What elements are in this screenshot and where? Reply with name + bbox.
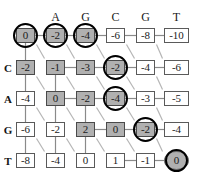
row-header-3: G	[2, 124, 14, 136]
edge-diagonal-r0-c1	[67, 45, 75, 59]
matrix-cell-r2-c5: -5	[164, 91, 189, 106]
edge-diagonal-r0-c0	[37, 45, 45, 59]
matrix-cell-r3-c5: -4	[164, 122, 189, 137]
matrix-cell-r0-c4: -8	[136, 28, 155, 43]
edge-diagonal-r1-c4	[157, 77, 163, 90]
edge-diagonal-r1-c1	[67, 77, 75, 90]
matrix-cell-r3-c2: 2	[76, 122, 95, 137]
dp-matrix-figure: AGCGT CAGT 0-2-4-6-8-10-2-1-3-2-4-6-40-2…	[0, 0, 211, 192]
edge-diagonal-r3-c1	[67, 139, 75, 152]
column-header-4: G	[136, 10, 156, 25]
matrix-cell-r1-c4: -4	[136, 60, 155, 75]
matrix-cell-r4-c0: -8	[16, 153, 35, 168]
matrix-cell-r0-c3: -6	[106, 28, 125, 43]
edge-diagonal-r3-c4	[157, 139, 163, 152]
matrix-cell-r2-c4: -3	[136, 91, 155, 106]
edge-diagonal-r1-c2	[97, 77, 105, 90]
matrix-cell-r4-c2: 0	[76, 153, 95, 168]
edge-diagonal-r2-c0	[37, 108, 45, 121]
matrix-cell-r4-c4: -1	[136, 153, 155, 168]
matrix-cell-r0-c2: -4	[76, 28, 95, 43]
matrix-cell-r0-c0: 0	[16, 28, 35, 43]
edge-diagonal-r2-c2	[97, 108, 105, 121]
column-header-5: T	[167, 10, 187, 25]
matrix-cell-r4-c5: 0	[164, 151, 189, 170]
row-header-4: T	[2, 155, 14, 167]
edge-diagonal-r0-c3	[127, 45, 135, 59]
matrix-cell-r1-c2: -3	[76, 60, 95, 75]
edge-diagonal-r1-c0	[37, 77, 45, 90]
edge-diagonal-r1-c3	[127, 77, 135, 90]
column-header-3: C	[106, 10, 126, 25]
edge-diagonal-r2-c1	[67, 108, 75, 121]
matrix-cell-r1-c3: -2	[106, 60, 125, 75]
column-header-1: A	[46, 10, 66, 25]
edge-diagonal-r3-c2	[97, 139, 105, 152]
matrix-cell-r0-c5: -10	[164, 28, 189, 43]
matrix-cell-r2-c1: 0	[46, 91, 65, 106]
matrix-cell-r2-c3: -4	[106, 91, 125, 106]
edge-diagonal-r2-c4	[157, 108, 163, 121]
matrix-cell-r2-c2: -2	[76, 91, 95, 106]
column-header-2: G	[76, 10, 96, 25]
matrix-cell-r3-c1: -2	[46, 122, 65, 137]
matrix-cell-r3-c4: -2	[136, 122, 155, 137]
row-header-2: A	[2, 93, 14, 105]
edge-diagonal-r2-c3	[127, 108, 135, 121]
matrix-cell-r4-c1: -4	[46, 153, 65, 168]
edge-diagonal-r0-c2	[97, 45, 105, 59]
matrix-cell-r1-c0: -2	[16, 60, 35, 75]
matrix-cell-r3-c0: -6	[16, 122, 35, 137]
matrix-cell-r3-c3: 0	[106, 122, 125, 137]
edge-diagonal-r3-c0	[37, 139, 45, 152]
matrix-cell-r2-c0: -4	[16, 91, 35, 106]
matrix-cell-r4-c3: 1	[106, 153, 125, 168]
matrix-cell-r1-c1: -1	[46, 60, 65, 75]
row-header-1: C	[2, 62, 14, 74]
matrix-cell-r0-c1: -2	[46, 28, 65, 43]
matrix-cell-r1-c5: -6	[164, 60, 189, 75]
edge-diagonal-r3-c3	[127, 139, 135, 152]
edge-diagonal-r0-c4	[157, 45, 163, 59]
